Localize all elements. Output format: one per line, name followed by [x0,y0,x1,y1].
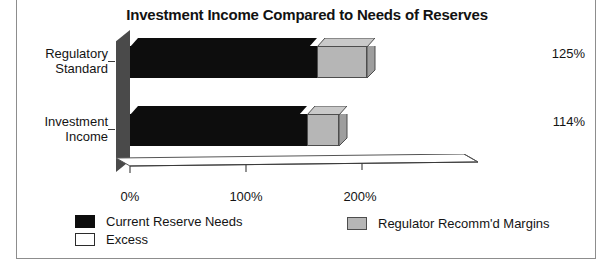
category-label-regulatory-standard: Regulatory Standard [0,46,108,76]
x-tick-label-200: 200% [330,189,390,204]
bar-top-face-current-reserve-needs [130,106,307,114]
bar-segment-current-reserve-needs [130,46,317,78]
bar-segment-current-reserve-needs [130,114,307,146]
bar-top-face-current-reserve-needs [130,38,317,46]
legend-item-excess: Excess [75,232,148,247]
category-label-line1: Regulatory [45,46,108,61]
legend-swatch-gray-icon [347,217,367,230]
axis-floor-3d [116,154,478,178]
axis-wall-3d [116,30,130,172]
chart-legend: Current Reserve Needs Excess Regulator R… [17,214,597,256]
category-label-line1: Investment [44,114,108,129]
bar-segment-regulator-margins [307,114,339,146]
legend-swatch-black-icon [75,215,95,228]
legend-item-current-reserve-needs: Current Reserve Needs [75,214,243,229]
x-axis-tick-labels: 0% 100% 200% [17,185,597,209]
category-tick-mark [108,129,115,130]
bar-side-face-regulator-margins [339,114,351,146]
plot-area: Regulatory Standard Investment Income [17,30,597,185]
legend-label: Excess [106,232,148,247]
chart-title: Investment Income Compared to Needs of R… [17,6,597,23]
legend-swatch-white-icon [75,233,95,246]
x-tick-label-0: 0% [100,189,160,204]
category-label-investment-income: Investment Income [0,114,108,144]
legend-label: Current Reserve Needs [106,214,243,229]
category-label-line2: Standard [0,61,108,76]
bar-segment-regulator-margins [317,46,367,78]
category-tick-mark [108,61,115,62]
chart-frame: Investment Income Compared to Needs of R… [16,0,596,259]
x-tick-label-100: 100% [216,189,276,204]
category-label-line2: Income [0,129,108,144]
legend-label: Regulator Recomm'd Margins [378,216,550,231]
legend-item-regulator-margins: Regulator Recomm'd Margins [347,216,550,231]
data-label-investment-income: 114% [515,114,585,129]
bar-top-face-regulator-margins [307,106,347,114]
bar-side-face-regulator-margins [367,46,379,78]
data-label-regulatory-standard: 125% [515,46,585,61]
bar-top-face-regulator-margins [317,38,375,46]
